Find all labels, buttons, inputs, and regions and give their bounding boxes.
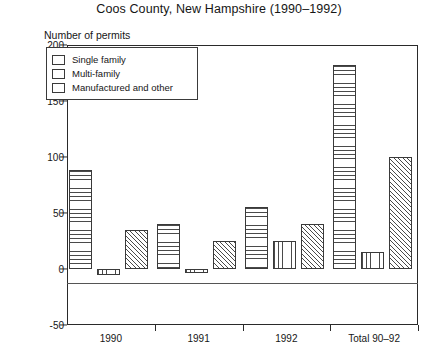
y-tick-label: -50 [50,320,64,331]
bar [273,241,296,269]
bar [361,252,384,269]
y-tick-label: 50 [53,208,64,219]
bar [301,224,324,269]
multi-family-swatch-icon [52,69,65,79]
bar [245,207,268,269]
bar [185,269,208,273]
bar [389,157,412,269]
x-tick-mark [330,325,331,331]
zero-baseline [67,283,418,284]
manufactured-swatch-icon [52,83,65,93]
y-tick-label: 0 [58,264,64,275]
legend: Single family Multi-family Manufactured … [46,47,198,100]
x-tick-mark [418,325,419,331]
x-tick-label: 1991 [188,333,210,344]
legend-label: Manufactured and other [72,82,173,93]
legend-label: Single family [72,54,126,65]
bar-chart: Coos County, New Hampshire (1990–1992) N… [0,0,438,363]
x-tick-label: Total 90–92 [348,333,400,344]
legend-label: Multi-family [72,68,120,79]
bar [97,269,120,275]
bar [69,170,92,269]
x-tick-label: 1990 [100,333,122,344]
bar [333,65,356,269]
bar [213,241,236,269]
bar [125,230,148,269]
legend-item-multi-family: Multi-family [52,67,191,80]
x-tick-mark [243,325,244,331]
x-tick-mark [155,325,156,331]
bar [157,224,180,269]
legend-item-manufactured-and-other: Manufactured and other [52,81,191,94]
single-family-swatch-icon [52,55,65,65]
legend-item-single-family: Single family [52,53,191,66]
y-tick-label: 100 [47,152,64,163]
chart-title: Coos County, New Hampshire (1990–1992) [0,2,438,16]
x-tick-label: 1992 [275,333,297,344]
